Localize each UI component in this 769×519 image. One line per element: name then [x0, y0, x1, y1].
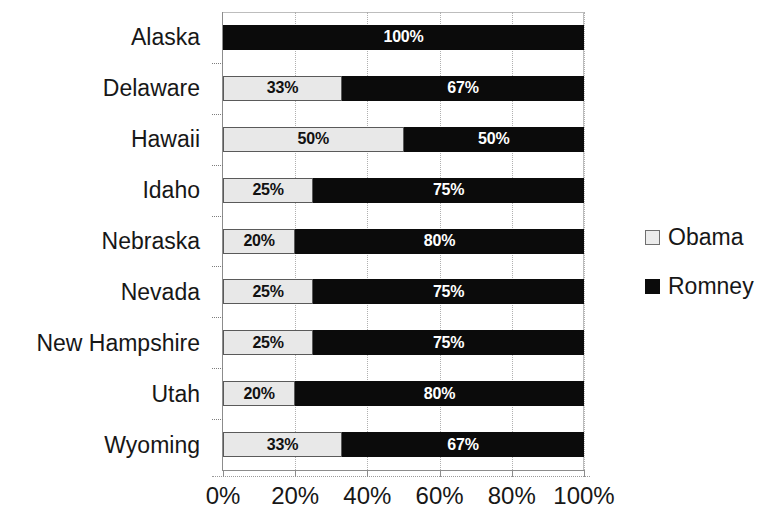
bar-row[interactable]: 25%75%: [223, 330, 584, 355]
bar-segment-obama[interactable]: 25%: [223, 279, 313, 304]
x-axis-line: [222, 470, 584, 471]
bar-segment-romney[interactable]: 67%: [342, 76, 584, 101]
x-axis-label-80: 80%: [488, 482, 536, 510]
y-axis-tick: [212, 114, 223, 115]
bar-row[interactable]: 25%75%: [223, 279, 584, 304]
chart-legend: ObamaRomney: [645, 222, 769, 320]
bar-value-label: 33%: [267, 437, 298, 453]
bar-row[interactable]: 100%: [223, 25, 584, 50]
plot-area: 100%33%67%50%50%25%75%20%80%25%75%25%75%…: [223, 12, 584, 470]
x-axis-tick-60: [440, 470, 441, 477]
legend-item-obama[interactable]: Obama: [645, 222, 769, 252]
category-label-alaska: Alaska: [0, 26, 200, 49]
x-axis-tick-0: [223, 470, 224, 477]
y-axis-tick: [212, 368, 223, 369]
category-label-hawaii: Hawaii: [0, 128, 200, 151]
bar-value-label: 75%: [433, 182, 464, 198]
bar-segment-obama[interactable]: 25%: [223, 178, 313, 203]
bar-row[interactable]: 33%67%: [223, 76, 584, 101]
bar-value-label: 100%: [383, 29, 423, 45]
category-label-wyoming: Wyoming: [0, 434, 200, 457]
bar-row[interactable]: 33%67%: [223, 432, 584, 457]
bar-segment-romney[interactable]: 75%: [313, 279, 584, 304]
bar-segment-romney[interactable]: 80%: [295, 381, 584, 406]
x-axis-tick-80: [512, 470, 513, 477]
bar-value-label: 20%: [243, 386, 274, 402]
bar-value-label: 50%: [478, 131, 509, 147]
y-axis-tick: [212, 317, 223, 318]
bar-value-label: 50%: [298, 131, 329, 147]
x-axis-label-20: 20%: [271, 482, 319, 510]
y-axis-tick: [212, 63, 223, 64]
bar-row[interactable]: 25%75%: [223, 178, 584, 203]
bar-segment-obama[interactable]: 20%: [223, 381, 295, 406]
category-label-nebraska: Nebraska: [0, 230, 200, 253]
bar-value-label: 80%: [424, 233, 455, 249]
bar-value-label: 75%: [433, 284, 464, 300]
x-axis-label-60: 60%: [416, 482, 464, 510]
gridline-100: [584, 12, 586, 470]
bar-value-label: 20%: [243, 233, 274, 249]
bar-value-label: 25%: [252, 182, 283, 198]
bar-value-label: 33%: [267, 80, 298, 96]
legend-label: Obama: [668, 226, 743, 249]
bar-segment-romney[interactable]: 50%: [404, 127, 585, 152]
bar-value-label: 25%: [252, 284, 283, 300]
x-axis-label-0: 0%: [206, 482, 241, 510]
bar-row[interactable]: 20%80%: [223, 381, 584, 406]
x-axis-tick-40: [367, 470, 368, 477]
bar-segment-obama[interactable]: 50%: [223, 127, 404, 152]
bar-segment-obama[interactable]: 33%: [223, 432, 342, 457]
x-axis-tick-labels: 0%20%40%60%80%100%: [223, 482, 584, 514]
category-label-idaho: Idaho: [0, 179, 200, 202]
romney-swatch: [645, 279, 660, 294]
y-axis-tick: [212, 216, 223, 217]
legend-label: Romney: [668, 275, 754, 298]
category-axis-labels: AlaskaDelawareHawaiiIdahoNebraskaNevadaN…: [0, 0, 206, 471]
bar-segment-romney[interactable]: 75%: [313, 178, 584, 203]
bar-value-label: 75%: [433, 335, 464, 351]
bar-row[interactable]: 20%80%: [223, 229, 584, 254]
bar-segment-romney[interactable]: 100%: [223, 25, 584, 50]
bar-segment-obama[interactable]: 33%: [223, 76, 342, 101]
bar-row[interactable]: 50%50%: [223, 127, 584, 152]
y-axis-tick: [212, 266, 223, 267]
category-label-utah: Utah: [0, 383, 200, 406]
bar-value-label: 67%: [447, 437, 478, 453]
x-axis-label-100: 100%: [553, 482, 614, 510]
bar-value-label: 67%: [447, 80, 478, 96]
bar-segment-obama[interactable]: 25%: [223, 330, 313, 355]
legend-item-romney[interactable]: Romney: [645, 271, 769, 301]
obama-swatch: [645, 230, 660, 245]
category-label-new-hampshire: New Hampshire: [0, 332, 200, 355]
bar-segment-romney[interactable]: 67%: [342, 432, 584, 457]
x-axis-dotted-guide: [212, 476, 590, 477]
x-axis-label-40: 40%: [343, 482, 391, 510]
bar-segment-romney[interactable]: 75%: [313, 330, 584, 355]
y-axis-tick: [212, 419, 223, 420]
x-axis-tick-100: [584, 470, 585, 477]
plot-top-border: [223, 12, 584, 13]
bar-value-label: 80%: [424, 386, 455, 402]
bar-segment-obama[interactable]: 20%: [223, 229, 295, 254]
bar-segment-romney[interactable]: 80%: [295, 229, 584, 254]
stacked-bar-chart: AlaskaDelawareHawaiiIdahoNebraskaNevadaN…: [0, 0, 769, 519]
category-label-nevada: Nevada: [0, 281, 200, 304]
x-axis-tick-20: [295, 470, 296, 477]
category-label-delaware: Delaware: [0, 77, 200, 100]
bar-value-label: 25%: [252, 335, 283, 351]
y-axis-tick: [212, 165, 223, 166]
